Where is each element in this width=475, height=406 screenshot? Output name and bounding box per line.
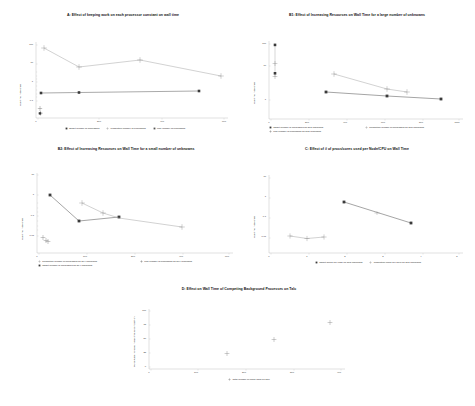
chart-b2-legend-entry-0: Production number of processors for 5e4 … — [38, 260, 130, 263]
chart-d-plot-svg — [149, 309, 345, 369]
chart-a-ytick-0: 100 — [22, 43, 33, 45]
square-marker-icon — [315, 261, 318, 264]
chart-d-legend: Total number of cores used on Talc — [179, 378, 319, 381]
chart-c-plot-svg — [269, 175, 463, 253]
chart-a-legend: Target number of processors Production n… — [20, 127, 230, 130]
chart-b2-legend-label-0: Production number of processors for 5e4 … — [42, 260, 97, 263]
chart-c-xtick-4: 4 — [417, 255, 425, 257]
chart-a-legend-entry-2: Max number of processors — [153, 127, 186, 130]
cross-marker-icon — [269, 130, 272, 133]
chart-d-ytick-marks — [149, 311, 151, 367]
chart-d-ytick-2: 50 — [135, 337, 146, 339]
chart-a-ytick-3: 0.1 — [22, 99, 33, 101]
square-marker-icon — [153, 127, 156, 130]
chart-b1-legend-label-1: Max number of processors for 5e5 unknown… — [273, 130, 321, 133]
chart-b1-legend-entry-1: Max number of processors for 5e5 unknown… — [269, 130, 357, 133]
square-marker-icon — [269, 126, 272, 129]
chart-d-xtick-0: 0 — [145, 371, 153, 373]
chart-d-ytick-3: 25 — [135, 351, 146, 353]
chart-b2-ytick-1: 1 — [23, 193, 34, 195]
chart-c-legend-entry-1: Production cores per CPU for 5e5 unknown… — [369, 261, 421, 264]
chart-c-plot-area — [269, 175, 463, 253]
chart-panel-a: A: Effect of keeping work on each proces… — [8, 14, 238, 132]
chart-c-ytick-2: 0.1 — [255, 215, 266, 217]
chart-d-scatter-points — [225, 320, 333, 356]
chart-b2-ytick-3: 0.01 — [23, 234, 34, 236]
chart-b1-legend-entry-0: Target number of processors for 5e5 unkn… — [269, 126, 357, 129]
chart-a-ytick-2: 1 — [22, 80, 33, 82]
chart-c-legend: Target CPUs per node for 5e5 unknowns Pr… — [283, 261, 453, 264]
chart-b1-xtick-3: 600 — [379, 121, 387, 123]
chart-b2-ytick-2: 0.1 — [23, 214, 34, 216]
chart-d-ytick-0: 100 — [135, 309, 146, 311]
chart-c-ytick-marks — [269, 178, 271, 238]
chart-a-legend-label-0: Target number of processors — [69, 127, 99, 130]
chart-a-legend-label-1: Production number of processors — [111, 127, 146, 130]
chart-b1-y-axis-label: Wall time in seconds — [254, 82, 256, 104]
chart-b1-legend-entry-2: Production number of processors for 5e5 … — [365, 126, 457, 129]
chart-c-legend-label-0: Target CPUs per node for 5e5 unknowns — [319, 261, 362, 264]
chart-panel-b1: B1: Effect of Increasing Resources on Wa… — [243, 14, 471, 134]
chart-d-legend-entry-0: Total number of cores used on Talc — [228, 378, 269, 381]
chart-b2-ytick-0: 10 — [23, 173, 34, 175]
chart-c-title: C: Effect of # of procs/cores used per N… — [243, 148, 471, 152]
chart-b1-xtick-4: 800 — [417, 121, 425, 123]
chart-c-xtick-3: 3 — [379, 255, 387, 257]
square-marker-icon — [65, 127, 68, 130]
chart-b1-series-production-line — [334, 74, 407, 92]
chart-c-xtick-1: 1 — [303, 255, 311, 257]
chart-b1-title: B1: Effect of Increasing Resources on Wa… — [243, 14, 471, 18]
chart-b2-legend-entry-1: Target number of processors for 5e4 unkn… — [38, 264, 130, 267]
chart-c-legend-label-1: Production cores per CPU for 5e5 unknown… — [374, 261, 421, 264]
chart-a-series-target-square — [39, 112, 41, 114]
chart-a-xtick-3: 600 — [220, 120, 228, 122]
chart-b1-xtick-0: 0 — [265, 121, 273, 123]
chart-b2-xtick-0: 0 — [33, 255, 41, 257]
chart-d-xtick-4: 400 — [335, 371, 343, 373]
chart-d-xtick-2: 200 — [240, 371, 248, 373]
chart-d-xtick-3: 300 — [288, 371, 296, 373]
chart-b2-xtick-4: 600 — [223, 255, 231, 257]
chart-b1-series-production-markers — [331, 71, 410, 95]
chart-c-ytick-0: 10 — [255, 175, 266, 177]
chart-c-xtick-0: 0 — [265, 255, 273, 257]
chart-b2-series-production-line — [82, 203, 182, 227]
chart-b2-legend-label-2: Max number of processors for 5e4 unknown… — [144, 260, 192, 263]
chart-a-title: A: Effect of keeping work on each proces… — [8, 14, 238, 18]
chart-a-legend-entry-0: Target number of processors — [65, 127, 100, 130]
chart-a-series-production-line — [44, 48, 221, 76]
cross-marker-icon — [365, 126, 368, 129]
chart-b2-series-max-markers — [41, 235, 51, 244]
chart-a-series-max-line — [41, 91, 199, 93]
chart-d-ytick-1: 75 — [135, 323, 146, 325]
chart-a-ytick-marks — [36, 45, 38, 101]
chart-a-legend-label-2: Max number of processors — [157, 127, 185, 130]
chart-b2-legend-entry-2: Max number of processors for 5e4 unknown… — [140, 260, 228, 263]
chart-a-legend-entry-1: Production number of processors — [106, 127, 145, 130]
chart-b2-xtick-2: 200 — [129, 255, 137, 257]
cross-marker-icon — [369, 261, 372, 264]
chart-b2-plot-area — [37, 173, 233, 253]
chart-panel-c: C: Effect of # of procs/cores used per N… — [243, 148, 471, 266]
chart-a-ytick-1: 10 — [22, 61, 33, 63]
chart-b2-xtick-3: 400 — [177, 255, 185, 257]
chart-b1-legend-label-0: Target number of processors for 5e5 unkn… — [273, 126, 323, 129]
chart-b1-xtick-marks — [271, 119, 459, 121]
chart-c-series-target-line — [344, 202, 411, 223]
chart-c-legend-entry-0: Target CPUs per node for 5e5 unknowns — [315, 261, 362, 264]
chart-d-xtick-1: 100 — [192, 371, 200, 373]
chart-a-y-axis-label: Wall time in seconds — [20, 84, 22, 106]
chart-b1-xtick-5: 1000 — [453, 121, 461, 123]
chart-c-ytick-3: 0.01 — [255, 235, 266, 237]
chart-b1-xtick-1: 200 — [303, 121, 311, 123]
chart-b2-y-axis-label: Wall time in seconds — [22, 218, 24, 240]
chart-a-plot-area — [36, 42, 228, 118]
chart-b2-title: B2: Effect of Increasing Resources on Wa… — [10, 148, 242, 152]
chart-b1-plot-svg — [269, 41, 463, 119]
chart-d-title: D: Effect on Wall Time of Competing Back… — [123, 288, 355, 292]
chart-d-ytick-4: 0 — [135, 365, 146, 367]
chart-b1-plot-area — [269, 41, 463, 119]
chart-b2-plot-svg — [37, 173, 233, 253]
figure-page: { "figure": { "background": "#ffffff", "… — [0, 0, 475, 406]
cross-marker-icon — [140, 260, 143, 263]
